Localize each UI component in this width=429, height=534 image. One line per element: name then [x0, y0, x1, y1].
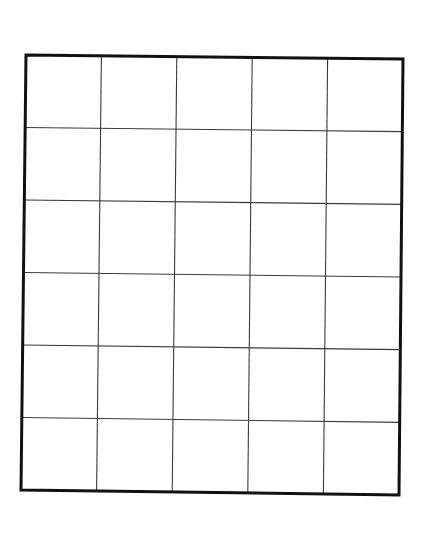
grid-row-line	[22, 418, 400, 423]
grid-diagram	[0, 0, 429, 534]
grid-row-line	[24, 273, 402, 278]
grid-row-line	[24, 200, 401, 204]
grid-inner-lines	[22, 56, 403, 494]
grid-row-line	[25, 128, 402, 132]
grid-row-line	[23, 345, 401, 350]
